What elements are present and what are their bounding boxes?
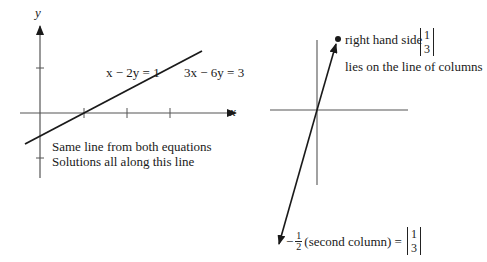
column-vector-down [279, 110, 317, 244]
left-x-axis [20, 108, 236, 118]
equation-2: 3x − 6y = 3 [184, 66, 244, 79]
bottom-vector-entry-2: 3 [411, 241, 417, 255]
rhs-point [335, 36, 341, 42]
rhs-vector: 1 3 [420, 28, 434, 56]
fraction-denominator: 2 [296, 242, 301, 252]
bottom-vector: 1 3 [407, 227, 421, 255]
rhs-vector-entry-1: 1 [424, 28, 430, 42]
minus-sign: − [286, 235, 293, 248]
bottom-equation: − 1 2 (second column) = 1 3 [286, 227, 421, 255]
left-y-axis [36, 26, 44, 178]
column-vector-up [317, 44, 336, 110]
rhs-vector-entry-2: 3 [424, 42, 430, 56]
second-column-text: (second column) = [304, 235, 402, 248]
rhs-label: right hand side [345, 33, 422, 46]
bottom-vector-entry-1: 1 [411, 227, 417, 241]
equation-1: x − 2y = 1 [106, 66, 160, 79]
note-same-line: Same line from both equations [52, 140, 212, 153]
note-solutions: Solutions all along this line [52, 155, 194, 168]
fraction-numerator: 1 [295, 231, 302, 242]
rhs-note: lies on the line of columns [345, 60, 483, 73]
one-half-fraction: 1 2 [295, 231, 302, 252]
y-axis-label: y [35, 6, 41, 19]
x-axis-label: x [230, 105, 236, 118]
